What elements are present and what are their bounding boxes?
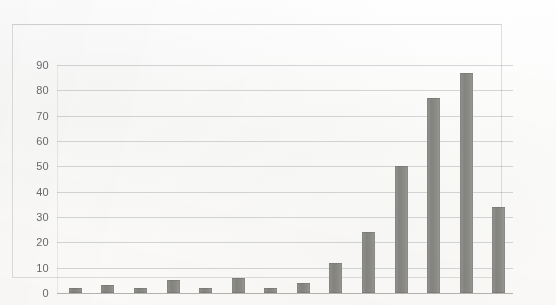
bar-2022: [460, 73, 473, 293]
bar-2014: [199, 288, 212, 293]
plot-area: 0102030405060708090 20102011201220132014…: [57, 65, 513, 293]
y-tick-label: 30: [19, 211, 49, 223]
bar-2017: [297, 283, 310, 293]
gridline: [57, 166, 513, 167]
gridline: [57, 217, 513, 218]
gridline: [57, 141, 513, 142]
gridline: [57, 268, 513, 269]
bar-2013: [167, 280, 180, 293]
gridline: [57, 116, 513, 117]
axis-baseline: [57, 293, 513, 294]
bar-2016: [264, 288, 277, 293]
y-tick-label: 20: [19, 236, 49, 248]
y-tick-label: 60: [19, 135, 49, 147]
bar-2018: [329, 263, 342, 293]
bar-2010: [69, 288, 82, 293]
gridline: [57, 90, 513, 91]
y-tick-label: 80: [19, 84, 49, 96]
bar-2015: [232, 278, 245, 293]
y-tick-label: 0: [19, 287, 49, 299]
bar-2011: [101, 285, 114, 293]
gridline: [57, 242, 513, 243]
y-tick-label: 90: [19, 59, 49, 71]
gridline: [57, 65, 513, 66]
bar-2019: [362, 232, 375, 293]
bar-2021: [427, 98, 440, 293]
y-tick-label: 40: [19, 186, 49, 198]
bar-2023: [492, 207, 505, 293]
value-axis-line: [57, 65, 58, 293]
y-tick-label: 50: [19, 160, 49, 172]
y-tick-label: 70: [19, 110, 49, 122]
chart-frame: 0102030405060708090 20102011201220132014…: [12, 24, 502, 278]
bar-2012: [134, 288, 147, 293]
y-tick-label: 10: [19, 262, 49, 274]
gridline: [57, 192, 513, 193]
bar-2020: [395, 166, 408, 293]
